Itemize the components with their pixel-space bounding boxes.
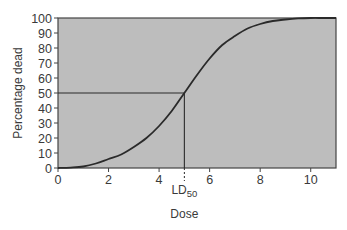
- y-tick-label: 60: [38, 72, 52, 86]
- x-tick-label: 4: [156, 173, 163, 187]
- y-axis-label: Percentage dead: [11, 47, 25, 138]
- x-tick-label: 2: [105, 173, 112, 187]
- ld50-label: LD50: [171, 183, 197, 199]
- y-tick-label: 0: [45, 162, 52, 176]
- y-axis-ticks: 0102030405060708090100: [31, 12, 58, 176]
- x-tick-label: 0: [55, 173, 62, 187]
- y-tick-label: 50: [38, 87, 52, 101]
- dose-response-chart: 0102030405060708090100 0246810 Percentag…: [0, 0, 347, 230]
- x-axis-label: Dose: [170, 207, 198, 221]
- y-tick-label: 80: [38, 42, 52, 56]
- y-tick-label: 90: [38, 27, 52, 41]
- y-tick-label: 40: [38, 102, 52, 116]
- y-tick-label: 70: [38, 57, 52, 71]
- x-tick-label: 10: [304, 173, 318, 187]
- y-tick-label: 30: [38, 117, 52, 131]
- y-tick-label: 10: [38, 147, 52, 161]
- x-tick-label: 6: [206, 173, 213, 187]
- x-tick-label: 8: [257, 173, 264, 187]
- y-tick-label: 20: [38, 132, 52, 146]
- y-tick-label: 100: [31, 12, 52, 26]
